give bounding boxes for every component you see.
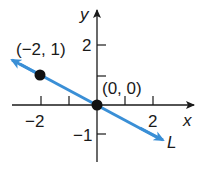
point-neg2-1 xyxy=(35,70,46,81)
point-origin xyxy=(92,100,103,111)
tick-label-x-neg2: −2 xyxy=(25,112,44,131)
coordinate-plane: y x −2 2 2 −1 (−2, 1) (0, 0) L xyxy=(0,0,198,170)
tick-label-x-2: 2 xyxy=(148,112,157,131)
x-axis-label: x xyxy=(182,111,192,130)
y-axis-label: y xyxy=(79,5,90,24)
point-label-neg2-1: (−2, 1) xyxy=(16,40,66,59)
line-label-l: L xyxy=(167,133,176,152)
tick-label-y-2: 2 xyxy=(82,36,91,55)
tick-label-y-neg1: −1 xyxy=(73,126,92,145)
point-label-origin: (0, 0) xyxy=(102,79,142,98)
